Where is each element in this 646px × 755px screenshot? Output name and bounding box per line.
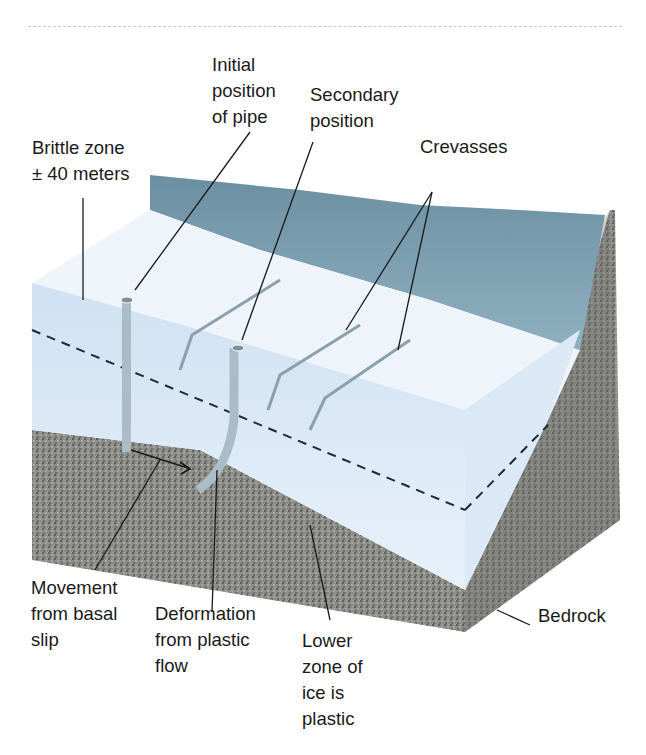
label-initial-position: Initial position of pipe (212, 52, 276, 130)
label-brittle-zone: Brittle zone ± 40 meters (32, 135, 130, 187)
label-lower-zone: Lower zone of ice is plastic (302, 628, 363, 732)
label-movement: Movement from basal slip (31, 575, 117, 653)
label-secondary-position: Secondary position (310, 82, 398, 134)
label-bedrock: Bedrock (538, 603, 606, 629)
label-deformation: Deformation from plastic flow (155, 601, 256, 679)
label-crevasses: Crevasses (420, 134, 507, 160)
